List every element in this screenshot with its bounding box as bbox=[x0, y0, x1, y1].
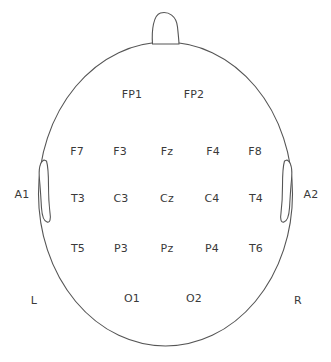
electrode-f8: F8 bbox=[248, 146, 262, 157]
electrode-t3: T3 bbox=[71, 193, 85, 204]
electrode-t5: T5 bbox=[71, 243, 85, 254]
electrode-t6: T6 bbox=[249, 243, 263, 254]
electrode-pz: Pz bbox=[161, 243, 174, 254]
reference-a1: A1 bbox=[15, 189, 30, 200]
electrode-p4: P4 bbox=[205, 243, 219, 254]
electrode-c4: C4 bbox=[204, 193, 219, 204]
electrode-p3: P3 bbox=[114, 243, 128, 254]
electrode-f4: F4 bbox=[206, 146, 220, 157]
head-diagram bbox=[0, 0, 331, 362]
eeg-electrode-map: FP1 FP2 F7 F3 Fz F4 F8 T3 C3 Cz C4 T4 T5… bbox=[0, 0, 331, 362]
orientation-left: L bbox=[31, 295, 37, 306]
orientation-right: R bbox=[294, 295, 302, 306]
electrode-o1: O1 bbox=[124, 293, 140, 304]
electrode-cz: Cz bbox=[160, 193, 174, 204]
electrode-fz: Fz bbox=[161, 146, 174, 157]
electrode-f7: F7 bbox=[70, 146, 84, 157]
electrode-fp2: FP2 bbox=[184, 89, 205, 100]
right-ear-outline bbox=[281, 160, 292, 222]
electrode-o2: O2 bbox=[186, 293, 202, 304]
left-ear-outline bbox=[39, 160, 50, 222]
electrode-c3: C3 bbox=[113, 193, 128, 204]
electrode-fp1: FP1 bbox=[122, 89, 143, 100]
electrode-f3: F3 bbox=[113, 146, 127, 157]
electrode-t4: T4 bbox=[249, 193, 263, 204]
nose-outline bbox=[152, 13, 179, 44]
reference-a2: A2 bbox=[304, 189, 319, 200]
